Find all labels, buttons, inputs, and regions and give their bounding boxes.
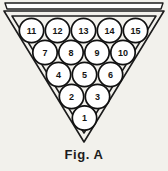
ball: 13	[71, 18, 95, 42]
ball-number-label: 13	[78, 26, 88, 36]
top-rail-bar	[5, 3, 163, 9]
ball: 12	[45, 18, 69, 42]
ball-number-label: 5	[82, 70, 87, 80]
ball-row-2: 7 8 9 10	[33, 40, 135, 64]
ball: 2	[59, 84, 83, 108]
billiard-rack-diagram: 11 12 13 14 15 7	[0, 0, 168, 146]
ball-number-label: 3	[95, 92, 100, 102]
figure-container: 11 12 13 14 15 7	[0, 0, 168, 171]
ball: 9	[85, 40, 109, 64]
ball: 14	[97, 18, 121, 42]
ball-number-label: 8	[68, 48, 73, 58]
ball-number-label: 11	[27, 26, 37, 36]
ball: 7	[33, 40, 57, 64]
ball-row-1: 11 12 13 14 15	[19, 18, 147, 42]
ball: 4	[46, 62, 70, 86]
ball-number-label: 12	[52, 26, 62, 36]
ball: 6	[98, 62, 122, 86]
ball: 1	[72, 106, 96, 130]
ball: 10	[111, 40, 135, 64]
ball: 8	[59, 40, 83, 64]
ball: 5	[72, 62, 96, 86]
ball-row-3: 4 5 6	[46, 62, 122, 86]
ball-number-label: 1	[82, 113, 87, 123]
figure-caption: Fig. A	[0, 147, 168, 162]
rack-top-rail	[5, 3, 163, 9]
ball-row-5: 1	[72, 106, 96, 130]
ball-number-label: 6	[108, 70, 113, 80]
ball-number-label: 2	[69, 92, 74, 102]
ball-number-label: 4	[56, 70, 61, 80]
ball-number-label: 7	[42, 48, 47, 58]
ball: 3	[85, 84, 109, 108]
ball-number-label: 10	[118, 48, 128, 58]
ball: 15	[123, 18, 147, 42]
ball-number-label: 9	[94, 48, 99, 58]
ball-number-label: 15	[130, 26, 140, 36]
ball-number-label: 14	[104, 26, 114, 36]
ball: 11	[19, 18, 43, 42]
